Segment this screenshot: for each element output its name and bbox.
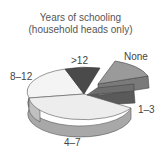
label-gt12: >12: [71, 55, 88, 66]
label-none: None: [124, 51, 148, 62]
label-1-3: 1–3: [138, 104, 155, 115]
label-4-7: 4–7: [64, 137, 81, 148]
label-8-12: 8–12: [10, 71, 32, 82]
